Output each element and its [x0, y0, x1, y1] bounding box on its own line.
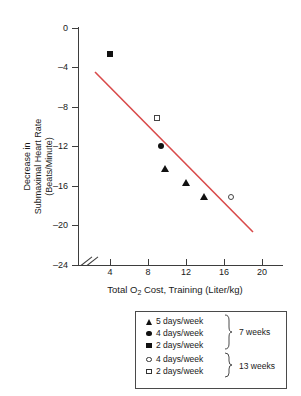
y-axis-title-line-1: Decrease in — [22, 67, 33, 267]
y-axis-title-line-2: Submaximal Heart Rate — [33, 67, 44, 267]
legend-item: 5 days/week — [142, 316, 282, 327]
legend-bracket-label-7-weeks: 7 weeks — [239, 328, 270, 337]
data-point-5days-7wk — [161, 165, 169, 172]
legend-bracket-label-13-weeks: 13 weeks — [239, 362, 275, 371]
x-tick-label: 12 — [174, 268, 198, 277]
open-circle-icon — [142, 357, 156, 363]
filled-circle-icon — [142, 331, 156, 337]
data-point-4days-7wk — [158, 143, 164, 149]
filled-triangle-icon — [142, 319, 156, 325]
data-point-5days-7wk — [200, 193, 208, 200]
y-tick-label: 0 — [28, 24, 68, 33]
x-axis-title-pre: Total O — [107, 284, 137, 295]
legend-item-label: 4 days/week — [156, 355, 203, 364]
open-square-icon — [142, 369, 156, 375]
regression-trendline — [78, 27, 283, 266]
brace-icon-7-weeks — [224, 314, 233, 350]
x-axis-title-subscript: 2 — [137, 289, 141, 296]
legend-item: 2 days/week — [142, 340, 282, 351]
legend-item-label: 5 days/week — [156, 317, 203, 326]
y-axis-title: Decrease in Submaximal Heart Rate (Beats… — [22, 67, 55, 267]
legend-item-label: 4 days/week — [156, 329, 203, 338]
brace-icon-13-weeks — [224, 352, 233, 378]
x-axis-title: Total O2 Cost, Training (Liter/kg) — [60, 284, 290, 297]
y-axis-title-line-3: (Beats/Minute) — [44, 67, 55, 267]
legend-item-label: 2 days/week — [156, 341, 203, 350]
data-point-2days-13wk — [154, 115, 160, 121]
data-point-2days-7wk — [107, 51, 113, 57]
x-tick-label: 20 — [250, 268, 274, 277]
filled-square-icon — [142, 343, 156, 349]
x-tick-label: 4 — [98, 268, 122, 277]
x-axis-title-post: Cost, Training (Liter/kg) — [141, 284, 242, 295]
x-tick-label: 8 — [136, 268, 160, 277]
x-tick-label: 16 — [212, 268, 236, 277]
legend-item-label: 2 days/week — [156, 367, 203, 376]
data-point-5days-7wk — [182, 179, 190, 186]
figure-canvas: 0 –4 –8 –12 –16 –20 –24 4 8 12 16 20 Dec… — [0, 0, 301, 396]
data-point-4days-13wk — [228, 194, 234, 200]
legend-box: 5 days/week 4 days/week 2 days/week 4 da… — [135, 311, 287, 389]
